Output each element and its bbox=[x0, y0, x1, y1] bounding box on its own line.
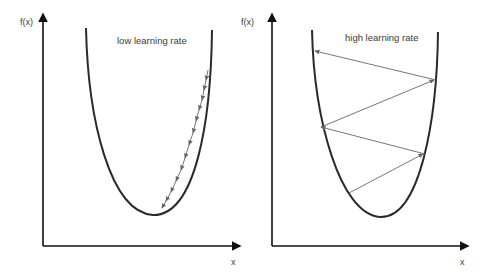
left-small-steps bbox=[162, 70, 208, 208]
left-panel-title: low learning rate bbox=[117, 35, 187, 46]
right-parabola bbox=[312, 30, 438, 217]
right-x-axis-label: x bbox=[460, 257, 465, 267]
right-y-axis-label: f(x) bbox=[241, 17, 254, 27]
right-panel-title: high learning rate bbox=[345, 32, 418, 43]
left-x-axis-label: x bbox=[231, 257, 236, 267]
left-parabola bbox=[86, 28, 212, 215]
right-panel bbox=[272, 14, 468, 246]
left-y-axis-label: f(x) bbox=[20, 17, 33, 27]
left-panel bbox=[43, 14, 240, 246]
right-large-steps bbox=[315, 51, 436, 193]
